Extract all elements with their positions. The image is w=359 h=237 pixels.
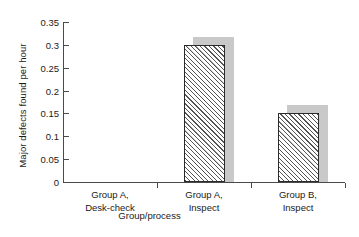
y-axis-tick [64, 159, 69, 160]
y-axis-tick-label: 0.35 [19, 17, 59, 28]
y-axis-tick-label: 0.05 [19, 154, 59, 165]
x-axis-tick [251, 183, 252, 188]
x-axis-category-label-line: Group A, [85, 188, 135, 201]
y-axis-tick-label: 0.1 [19, 131, 59, 142]
x-axis-category-label-line: Group B, [279, 188, 317, 201]
y-axis-tick [64, 45, 69, 46]
y-axis-tick [64, 113, 69, 114]
bar[interactable] [278, 113, 319, 182]
x-axis-category-label-line: Group A, [185, 188, 223, 201]
bar-chart-figure: Major defects found per hour 00.050.10.1… [0, 0, 359, 237]
x-axis-title: Group/process [118, 210, 180, 221]
plot-area: 00.050.10.150.20.250.30.35Group A,Desk-c… [63, 22, 345, 183]
y-axis-tick-label: 0.25 [19, 62, 59, 73]
y-axis-tick [64, 22, 69, 23]
y-axis-tick-label: 0.15 [19, 108, 59, 119]
y-axis-tick [64, 91, 69, 92]
y-axis-tick-label: 0.3 [19, 39, 59, 50]
x-axis-line [63, 182, 345, 183]
bar[interactable] [184, 45, 225, 182]
y-axis-tick [64, 68, 69, 69]
y-axis-tick-label: 0.2 [19, 85, 59, 96]
y-axis-tick [64, 182, 69, 183]
y-axis-tick-label: 0 [19, 177, 59, 188]
y-axis-tick [64, 136, 69, 137]
x-axis-tick [157, 183, 158, 188]
x-axis-tick [345, 183, 346, 188]
x-axis-title-wrap: Group/process [0, 210, 359, 221]
